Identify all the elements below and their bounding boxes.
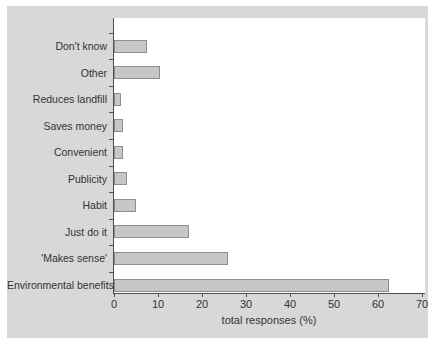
y-axis-tick: [109, 59, 113, 60]
y-axis-tick: [109, 245, 113, 246]
x-axis-tick: [114, 293, 115, 297]
x-axis-tick: [378, 293, 379, 297]
x-axis-tick: [290, 293, 291, 297]
y-axis-tick: [109, 219, 113, 220]
category-label-don-t-know: Don't know: [7, 39, 107, 53]
y-axis-tick: [109, 166, 113, 167]
y-axis-tick: [109, 272, 113, 273]
y-axis-tick: [109, 112, 113, 113]
bar-convenient: [114, 146, 123, 159]
category-label-just-do-it: Just do it: [7, 225, 107, 239]
x-tick-label-20: 20: [187, 298, 217, 310]
x-tick-label-50: 50: [319, 298, 349, 310]
y-axis-tick: [109, 86, 113, 87]
bar-other: [114, 66, 160, 79]
bar-habit: [114, 199, 136, 212]
y-axis-tick: [109, 33, 113, 34]
x-axis-tick: [158, 293, 159, 297]
y-axis-tick: [109, 139, 113, 140]
bar-publicity: [114, 172, 127, 185]
bar-makes-sense: [114, 252, 228, 265]
x-tick-label-60: 60: [363, 298, 393, 310]
bar-just-do-it: [114, 225, 189, 238]
x-tick-label-70: 70: [407, 298, 437, 310]
chart-panel: Don't knowOtherReduces landfillSaves mon…: [7, 6, 428, 338]
x-axis-tick: [202, 293, 203, 297]
x-tick-label-40: 40: [275, 298, 305, 310]
bar-environmental-benefits: [114, 279, 389, 292]
category-label-environmental-benefits: Environmental benefits: [7, 278, 107, 292]
category-label-other: Other: [7, 66, 107, 80]
category-label-convenient: Convenient: [7, 145, 107, 159]
bar-don-t-know: [114, 40, 147, 53]
x-axis-label: total responses (%): [113, 314, 425, 326]
plot-area: [113, 18, 425, 294]
x-axis-tick: [334, 293, 335, 297]
category-label-makes-sense: 'Makes sense': [7, 251, 107, 265]
x-tick-label-0: 0: [99, 298, 129, 310]
category-label-publicity: Publicity: [7, 172, 107, 186]
bar-saves-money: [114, 119, 123, 132]
x-axis-tick: [422, 293, 423, 297]
x-axis-tick: [246, 293, 247, 297]
category-label-reduces-landfill: Reduces landfill: [7, 92, 107, 106]
category-label-saves-money: Saves money: [7, 119, 107, 133]
x-tick-label-10: 10: [143, 298, 173, 310]
category-label-habit: Habit: [7, 198, 107, 212]
y-axis-tick: [109, 192, 113, 193]
x-tick-label-30: 30: [231, 298, 261, 310]
bar-reduces-landfill: [114, 93, 121, 106]
